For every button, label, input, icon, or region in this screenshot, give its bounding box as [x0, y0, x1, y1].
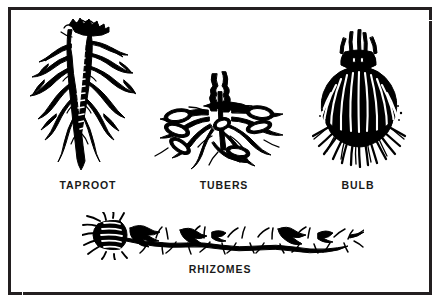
- bulb-illustration: [312, 28, 408, 168]
- taproot-illustration: [28, 14, 136, 172]
- tubers-illustration: [152, 70, 286, 172]
- caption-tubers: TUBERS: [176, 179, 272, 191]
- root-types-figure: TAPROOT: [0, 0, 440, 308]
- caption-taproot: TAPROOT: [40, 179, 136, 191]
- caption-bulb: BULB: [315, 179, 401, 191]
- caption-rhizomes: RHIZOMES: [140, 263, 300, 275]
- rhizomes-illustration: [82, 212, 364, 260]
